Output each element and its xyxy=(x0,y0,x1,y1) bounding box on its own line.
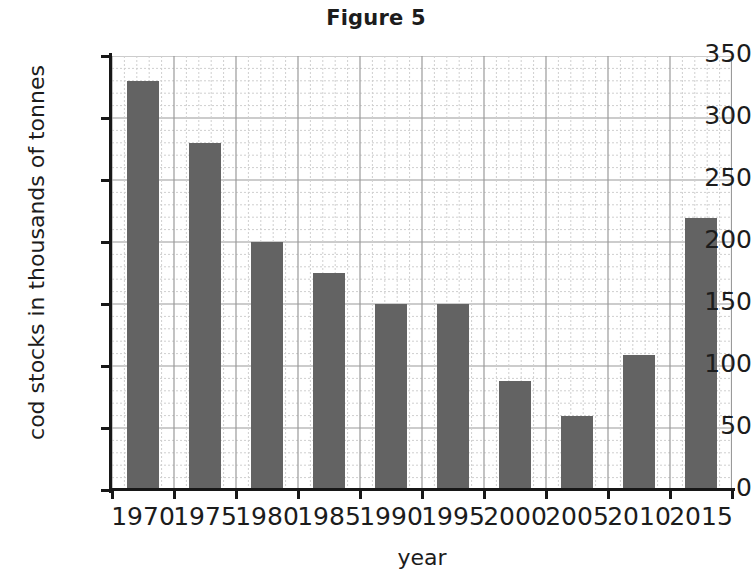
y-tick-mark xyxy=(101,117,112,120)
x-tick-mark xyxy=(483,488,486,499)
y-tick-mark xyxy=(101,55,112,58)
y-tick-label: 350 xyxy=(656,39,752,68)
x-tick-mark xyxy=(111,488,114,499)
y-tick-label: 200 xyxy=(656,225,752,254)
x-tick-mark xyxy=(669,488,672,499)
bar-chart-figure: Figure 5 050100150200250300350 197019751… xyxy=(0,0,752,588)
bars-layer xyxy=(112,56,732,490)
x-tick-mark xyxy=(359,488,362,499)
y-tick-mark xyxy=(101,179,112,182)
bar-2005 xyxy=(561,416,593,490)
bar-2000 xyxy=(499,381,531,490)
bar-2010 xyxy=(623,355,655,490)
x-tick-mark xyxy=(235,488,238,499)
chart-title: Figure 5 xyxy=(0,6,752,30)
bar-1990 xyxy=(375,304,407,490)
x-tick-mark xyxy=(731,488,734,499)
y-tick-label: 150 xyxy=(656,287,752,316)
bar-1970 xyxy=(127,81,159,490)
x-axis-title: year xyxy=(112,545,732,570)
x-tick-label-2015: 2015 xyxy=(663,502,739,531)
x-tick-mark xyxy=(607,488,610,499)
y-tick-mark xyxy=(101,427,112,430)
y-tick-label: 300 xyxy=(656,101,752,130)
bar-1980 xyxy=(251,242,283,490)
bar-1995 xyxy=(437,304,469,490)
y-tick-label: 50 xyxy=(656,411,752,440)
x-tick-mark xyxy=(297,488,300,499)
y-axis-title: cod stocks in thousands of tonnes xyxy=(24,18,49,488)
y-tick-label: 100 xyxy=(656,349,752,378)
bar-1975 xyxy=(189,143,221,490)
x-tick-mark xyxy=(421,488,424,499)
y-tick-mark xyxy=(101,303,112,306)
y-tick-mark xyxy=(101,365,112,368)
bar-1985 xyxy=(313,273,345,490)
plot-area xyxy=(112,56,732,490)
x-tick-mark xyxy=(173,488,176,499)
x-tick-mark xyxy=(545,488,548,499)
y-tick-mark xyxy=(101,241,112,244)
y-tick-label: 250 xyxy=(656,163,752,192)
